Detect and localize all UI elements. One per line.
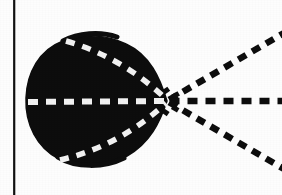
figure-canvas (0, 0, 282, 195)
figure-container (0, 0, 282, 195)
